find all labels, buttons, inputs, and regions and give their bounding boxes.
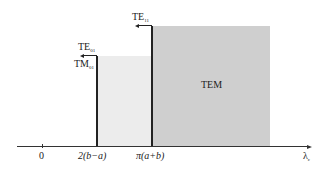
tick-label-2b-minus-a: 2(b−a)	[78, 151, 106, 161]
cutoff-line-te11	[151, 26, 153, 146]
te01-tm01-region	[97, 56, 152, 146]
te01-sub: 01	[90, 48, 95, 53]
tem-label: TEM	[201, 80, 222, 90]
te11-main: TE	[132, 11, 144, 22]
tick-zero	[42, 144, 43, 148]
te11-label: TE11	[132, 12, 149, 26]
diagram: TE11 TE01 TM01 TEM 0 2(b−a) π(a+b) λc	[0, 0, 323, 171]
te11-sub: 11	[144, 18, 149, 23]
x-axis-label: λc	[303, 151, 310, 165]
lambda-subscript: c	[308, 157, 310, 162]
te01-main: TE	[78, 41, 90, 52]
cutoff-line-te01-tm01	[96, 56, 98, 146]
x-axis-arrowhead-icon	[307, 145, 312, 149]
tm01-label: TM01	[74, 59, 94, 73]
x-axis	[17, 146, 308, 147]
te01-label: TE01	[78, 42, 95, 56]
tick-label-pi-a-plus-b: π(a+b)	[136, 151, 164, 161]
tm01-sub: 01	[89, 65, 94, 70]
tm01-main: TM	[74, 58, 89, 69]
tick-label-zero: 0	[39, 151, 44, 161]
